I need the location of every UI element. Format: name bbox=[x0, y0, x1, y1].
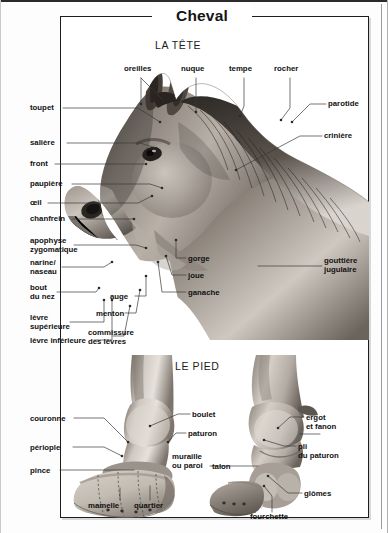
left-foot-group bbox=[74, 355, 175, 518]
label-oreilles: oreilles bbox=[124, 64, 151, 73]
label-periople: périople bbox=[30, 443, 60, 452]
section-title-head: LA TÊTE bbox=[155, 39, 201, 51]
label-bout-du-nez: bout du nez bbox=[30, 283, 55, 302]
label-quartier: quartier bbox=[134, 501, 163, 510]
label-oeil: œil bbox=[30, 198, 42, 207]
label-muraille-ou-paroi: muraille ou paroi bbox=[172, 452, 203, 471]
label-joue: joue bbox=[188, 271, 204, 280]
label-levre-superieure: lèvre supérieure bbox=[30, 313, 70, 332]
label-commissure-des-levres: commissure des lèvres bbox=[88, 328, 134, 347]
label-couronne: couronne bbox=[30, 414, 66, 423]
label-gorge: gorge bbox=[188, 254, 210, 263]
page-left-edge bbox=[0, 0, 1, 533]
label-paupiere: paupière bbox=[30, 179, 63, 188]
label-toupet: toupet bbox=[30, 103, 54, 112]
label-levre-inferieure: lèvre inférieure bbox=[30, 336, 86, 345]
label-pince: pince bbox=[30, 466, 50, 475]
label-rocher: rocher bbox=[274, 64, 298, 73]
label-auge: auge bbox=[110, 292, 128, 301]
page-inner-right-rule bbox=[381, 4, 382, 529]
label-apophyse-zygomatique: apophyse zygomatique bbox=[30, 236, 78, 255]
page-title: Cheval bbox=[152, 5, 252, 27]
label-tempe: tempe bbox=[229, 64, 252, 73]
label-paturon: paturon bbox=[188, 429, 217, 438]
label-fourchette: fourchette bbox=[250, 512, 288, 521]
horse-head-illustration bbox=[60, 60, 369, 340]
label-gouttiere-jugulaire: gouttière jugulaire bbox=[324, 256, 357, 275]
label-glomes: glômes bbox=[304, 489, 331, 498]
label-nuque: nuque bbox=[181, 64, 204, 73]
label-chanfrein: chanfrein bbox=[30, 214, 65, 223]
label-criniere: crinière bbox=[324, 131, 352, 140]
label-parotide: parotide bbox=[328, 99, 359, 108]
section-title-foot: LE PIED bbox=[175, 360, 219, 372]
label-boulet: boulet bbox=[192, 410, 215, 419]
label-menton: menton bbox=[96, 309, 124, 318]
label-narine-naseau: narine/ naseau bbox=[30, 258, 57, 277]
right-foot-group bbox=[210, 355, 318, 516]
label-pli-du-paturon: pli du paturon bbox=[298, 442, 339, 461]
label-saliere: salière bbox=[30, 138, 55, 147]
anatomy-plate-page: Cheval LA TÊTE LE PIED oreilles nuque te… bbox=[0, 0, 388, 533]
label-ganache: ganache bbox=[188, 288, 220, 297]
label-mamelle: mamelle bbox=[88, 501, 119, 510]
label-talon: talon bbox=[212, 462, 231, 471]
page-top-rule bbox=[0, 0, 388, 2]
label-ergot-et-fanon: ergot et fanon bbox=[306, 413, 336, 432]
label-front: front bbox=[30, 159, 48, 168]
